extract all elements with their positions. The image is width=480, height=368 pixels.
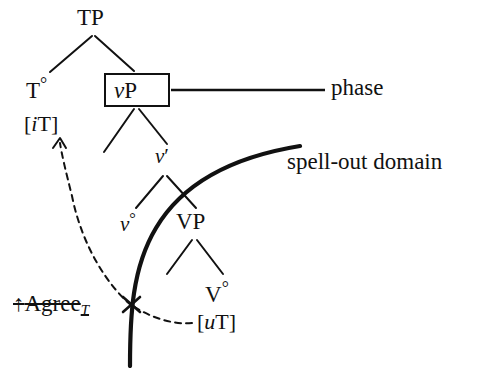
- v-bar-left-branch: [136, 176, 163, 208]
- node-label-VP: VP: [176, 210, 205, 233]
- V-head-letter: V: [205, 282, 222, 307]
- tp-right-branch: [95, 36, 134, 71]
- annotation-label-phase: phase: [331, 76, 383, 99]
- vp-left-branch: [104, 109, 134, 152]
- node-label-v-head-little: v°: [120, 211, 136, 235]
- tp-branches: [50, 36, 134, 72]
- agree-word: Agree: [25, 291, 81, 316]
- bracket-close: ]: [229, 309, 236, 334]
- little-v-letter: v: [114, 78, 124, 103]
- feature-t: T: [215, 309, 228, 334]
- bracket-close: ]: [51, 111, 58, 136]
- node-label-vp: vP: [114, 79, 137, 102]
- vp-lower-branches: [167, 240, 223, 274]
- feature-label-interpretable-tense: [iT]: [24, 113, 58, 135]
- v-head-little-v: v: [120, 212, 129, 236]
- dashed-agree-path-lower: [133, 306, 192, 323]
- V-head-degree-sign: °: [222, 278, 229, 298]
- feature-label-uninterpretable-tense: [uT]: [197, 311, 236, 333]
- node-label-t-head: T°: [26, 76, 47, 102]
- v-bar-right-branch: [167, 176, 196, 208]
- tp-left-branch: [50, 36, 92, 72]
- VP-left-branch: [167, 240, 192, 274]
- vp-right-branch: [139, 109, 167, 144]
- annotation-label-blocked-agree: ↑AgreeT: [13, 292, 89, 318]
- annotation-label-spell-out-domain: spell-out domain: [287, 150, 442, 173]
- node-label-tp: TP: [77, 6, 104, 29]
- v-head-degree-sign: °: [129, 209, 136, 228]
- syntax-tree-figure: TP T° [iT] vP v′ v° VP V° [uT] phase spe…: [0, 0, 480, 368]
- up-arrow-icon: ↑: [13, 291, 25, 316]
- t-head-degree-sign: °: [40, 74, 47, 94]
- feature-t: T: [37, 111, 50, 136]
- agree-subscript-t: T: [81, 302, 89, 318]
- t-head-letter: T: [26, 78, 40, 103]
- node-label-V-head: V°: [205, 280, 229, 306]
- v-bar-little-v: v: [155, 144, 164, 168]
- vp-p-letter: P: [124, 78, 137, 103]
- node-label-v-bar: v′: [155, 146, 169, 167]
- v-bar-prime-mark: ′: [164, 144, 169, 168]
- interpretability-marker-u: u: [204, 309, 215, 334]
- VP-right-branch: [197, 240, 223, 274]
